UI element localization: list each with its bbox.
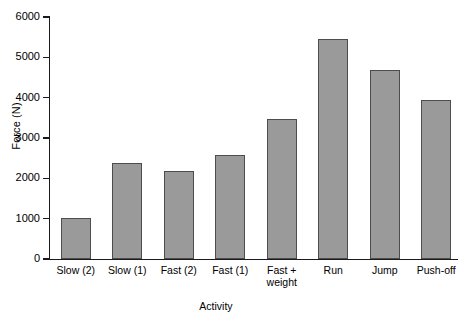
y-axis-tick — [43, 97, 50, 98]
y-axis-tick-label: 4000 — [0, 92, 40, 103]
bar — [421, 100, 451, 259]
y-axis-tick — [43, 178, 50, 179]
y-axis-tick-label: 5000 — [0, 51, 40, 62]
bar — [370, 70, 400, 259]
bar — [215, 155, 245, 259]
y-axis-tick — [43, 16, 50, 17]
bar — [267, 119, 297, 259]
y-axis-tick — [43, 218, 50, 219]
bar — [318, 39, 348, 259]
y-axis-tick — [43, 258, 50, 259]
x-axis-title: Activity — [0, 300, 468, 312]
y-axis-tick-label: 2000 — [0, 172, 40, 183]
bar — [112, 163, 142, 259]
y-axis-tick-label: 0 — [0, 253, 40, 264]
x-axis-tick-label: Push-off — [403, 264, 468, 276]
y-axis-tick-label: 6000 — [0, 11, 40, 22]
y-axis-tick — [43, 57, 50, 58]
plot-area — [50, 17, 462, 259]
y-axis-tick-label: 3000 — [0, 132, 40, 143]
y-axis-tick — [43, 137, 50, 138]
y-axis-tick-label: 1000 — [0, 213, 40, 224]
bar-chart: Force (N) 0100020003000400050006000 Slow… — [0, 0, 468, 322]
bar — [61, 218, 91, 259]
x-axis-title-text: Activity — [199, 300, 232, 312]
bar — [164, 171, 194, 259]
